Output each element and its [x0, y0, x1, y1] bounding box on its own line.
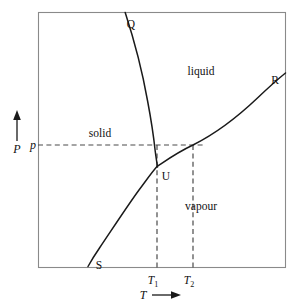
- region-label-liquid: liquid: [188, 65, 215, 78]
- pressure-axis-arrowhead: [13, 110, 21, 120]
- tick-label-T1-subscript: 1: [154, 280, 158, 289]
- temperature-axis-label: T: [140, 288, 148, 302]
- isobar-label-p: p: [29, 138, 36, 152]
- curve-label-S: S: [96, 259, 102, 271]
- curve-label-Q: Q: [127, 18, 136, 30]
- temperature-axis-arrowhead: [171, 291, 181, 299]
- plot-frame: [39, 13, 286, 268]
- region-label-vapour: vapour: [185, 200, 217, 213]
- triple-point-label-U: U: [162, 170, 171, 182]
- region-label-solid: solid: [89, 127, 112, 139]
- phase-diagram-figure: P T p solid liquid vapour Q R S U T1 T2: [0, 0, 302, 308]
- pressure-axis-label: P: [12, 142, 21, 156]
- tick-label-T2-subscript: 2: [190, 280, 194, 289]
- tick-label-T2: T2: [184, 274, 194, 289]
- tick-label-T1: T1: [148, 274, 158, 289]
- curve-label-R: R: [271, 74, 279, 86]
